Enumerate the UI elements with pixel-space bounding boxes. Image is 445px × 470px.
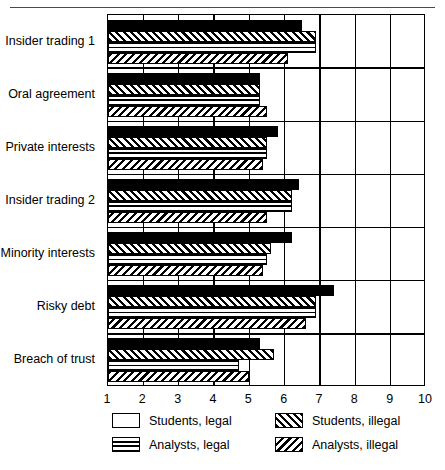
x-tick-label-8: 8 <box>351 392 358 406</box>
bar <box>108 20 302 31</box>
legend-item-analysts-legal: Analysts, legal <box>112 437 230 452</box>
legend-swatch-diagonal-right-hatch <box>275 413 303 428</box>
value-axis-ticks: 12345678910 <box>107 386 425 408</box>
bar <box>108 307 316 318</box>
bar <box>108 232 292 243</box>
bar <box>108 126 278 137</box>
bar-group <box>108 68 424 121</box>
legend-swatch-diagonal-left-hatch <box>275 437 303 452</box>
category-label-oral-agreement: Oral agreement <box>8 87 95 101</box>
x-tick-label-1: 1 <box>104 392 111 406</box>
x-tick-label-2: 2 <box>139 392 146 406</box>
category-label-insider-trading-1: Insider trading 1 <box>5 34 95 48</box>
plot-area <box>107 14 425 386</box>
legend-item-students-illegal: Students, illegal <box>275 413 400 428</box>
bar-group <box>108 334 424 387</box>
bar <box>108 190 292 201</box>
category-label-private-interests: Private interests <box>5 140 95 154</box>
bar-group <box>108 15 424 68</box>
bar <box>108 73 260 84</box>
category-axis-labels: Insider trading 1Oral agreementPrivate i… <box>0 14 101 386</box>
bar-group <box>108 121 424 174</box>
bar-group <box>108 228 424 281</box>
bar <box>108 31 316 42</box>
bar <box>108 254 267 265</box>
bar <box>108 53 288 64</box>
x-tick-label-9: 9 <box>386 392 393 406</box>
bar <box>108 106 267 117</box>
bar <box>108 371 249 382</box>
legend-label: Students, illegal <box>312 414 400 428</box>
bar <box>108 212 267 223</box>
bar <box>108 148 267 159</box>
chart-legend: Students, legalStudents, illegalAnalysts… <box>112 413 442 461</box>
x-tick-label-3: 3 <box>174 392 181 406</box>
legend-swatch-cross-grid-hatch <box>112 437 140 452</box>
bar-chart <box>107 14 425 386</box>
category-label-breach-of-trust: Breach of trust <box>14 352 95 366</box>
x-tick-label-5: 5 <box>245 392 252 406</box>
legend-label: Analysts, legal <box>149 438 230 452</box>
bar-group <box>108 174 424 227</box>
bar <box>108 360 239 371</box>
bar <box>108 265 263 276</box>
bar <box>108 84 260 95</box>
x-tick-label-7: 7 <box>316 392 323 406</box>
bar <box>108 285 334 296</box>
legend-item-analysts-illegal: Analysts, illegal <box>275 437 398 452</box>
x-tick-label-4: 4 <box>210 392 217 406</box>
category-label-minority-interests: Minority interests <box>1 246 95 260</box>
legend-swatch-solid-black <box>112 413 140 428</box>
x-tick-label-6: 6 <box>280 392 287 406</box>
bar <box>108 318 306 329</box>
bar <box>108 159 263 170</box>
legend-label: Analysts, illegal <box>312 438 398 452</box>
bar <box>108 95 260 106</box>
legend-label: Students, legal <box>149 414 232 428</box>
x-tick-label-10: 10 <box>418 392 432 406</box>
legend-item-students-legal: Students, legal <box>112 413 232 428</box>
category-label-risky-debt: Risky debt <box>37 299 95 313</box>
bar <box>108 296 316 307</box>
bar <box>108 349 274 360</box>
bar-group <box>108 281 424 334</box>
bar <box>108 201 292 212</box>
bar <box>108 42 316 53</box>
bar <box>108 338 260 349</box>
bar <box>108 243 271 254</box>
bar <box>108 179 299 190</box>
top-horizontal-rule <box>10 7 435 8</box>
bar <box>108 137 267 148</box>
category-label-insider-trading-2: Insider trading 2 <box>5 193 95 207</box>
